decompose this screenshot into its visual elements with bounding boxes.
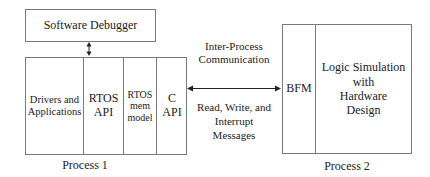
ipc-arrow-icon (187, 86, 281, 92)
connector-arrows (0, 0, 430, 177)
debugger-link-arrow-icon (87, 42, 92, 56)
